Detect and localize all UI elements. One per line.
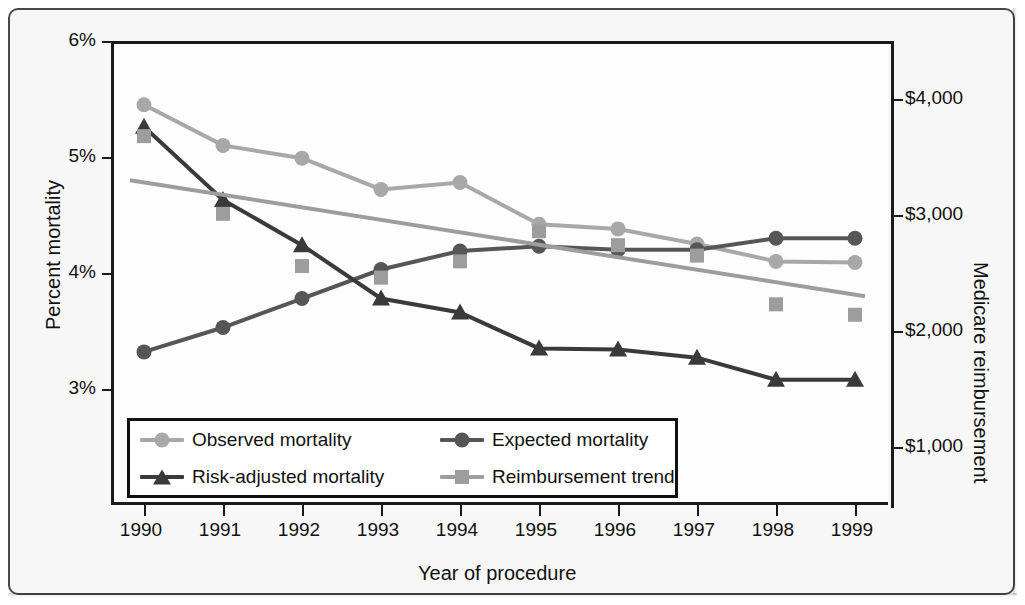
y-axis-tick-label: 4% (52, 261, 96, 283)
x-axis-tick-label: 1999 (824, 519, 880, 541)
right-spine (891, 41, 894, 508)
data-point (216, 320, 231, 335)
data-point (769, 297, 783, 311)
data-point (374, 182, 389, 197)
x-axis-tick-label: 1996 (587, 519, 643, 541)
top-spine (114, 41, 894, 44)
legend-marker-triangle (153, 469, 171, 484)
x-axis-tick (618, 505, 620, 516)
data-point (374, 271, 388, 285)
data-point (137, 97, 152, 112)
data-point (216, 138, 231, 153)
y-axis-tick-label: 6% (52, 29, 96, 51)
data-point (216, 207, 230, 221)
legend-label: Risk-adjusted mortality (192, 466, 384, 488)
data-point (532, 224, 546, 238)
legend-label: Observed mortality (192, 429, 351, 451)
legend-label: Expected mortality (492, 429, 648, 451)
data-point (848, 308, 862, 322)
legend-item-expected-mortality: Expected mortality (440, 429, 690, 451)
x-axis-tick (776, 505, 778, 516)
legend-item-risk-adjusted-mortality: Risk-adjusted mortality (140, 466, 440, 488)
data-point (848, 255, 863, 270)
x-axis-tick (855, 505, 857, 516)
y-axis-tick (102, 41, 114, 43)
y2-axis-tick-label: $3,000 (905, 203, 963, 225)
legend-item-reimbursement-trend: Reimbursement trend (440, 466, 690, 488)
y2-axis-title: Medicare reimbursement (969, 262, 992, 483)
legend-label: Reimbursement trend (492, 466, 675, 488)
y2-axis-tick-label: $1,000 (905, 435, 963, 457)
data-point (769, 231, 784, 246)
x-axis-tick (460, 505, 462, 516)
data-point (769, 254, 784, 269)
data-point (295, 151, 310, 166)
series-observed-mortality (137, 97, 863, 270)
x-axis-tick-label: 1992 (271, 519, 327, 541)
legend-marker-square (455, 470, 469, 484)
x-axis-tick-label: 1994 (429, 519, 485, 541)
trend-line (130, 180, 865, 296)
x-axis-tick-label: 1997 (666, 519, 722, 541)
legend-item-observed-mortality: Observed mortality (140, 429, 440, 451)
data-point (137, 344, 152, 359)
data-point (453, 175, 468, 190)
legend-swatch-line (140, 438, 184, 442)
data-point (611, 221, 626, 236)
legend-swatch-line (440, 475, 484, 479)
y-axis-title: Percent mortality (42, 180, 65, 330)
y-axis-tick (102, 389, 114, 391)
x-axis-tick (223, 505, 225, 516)
x-axis-tick (697, 505, 699, 516)
x-axis-tick-label: 1993 (350, 519, 406, 541)
legend-swatch-line (140, 475, 184, 479)
y2-axis-tick-label: $4,000 (905, 87, 963, 109)
y-axis-tick-label: 5% (52, 145, 96, 167)
data-point (848, 231, 863, 246)
data-point (293, 236, 311, 252)
x-axis-tick (381, 505, 383, 516)
chart-legend: Observed mortality Expected mortality Ri… (127, 418, 678, 498)
legend-swatch-line (440, 438, 484, 442)
data-point (611, 238, 625, 252)
x-axis-tick-label: 1990 (113, 519, 169, 541)
x-axis-tick (539, 505, 541, 516)
y2-axis-tick-label: $2,000 (905, 319, 963, 341)
x-axis-tick-label: 1991 (192, 519, 248, 541)
series-risk-adjusted-mortality (135, 118, 864, 387)
chart-canvas: Percent mortality Medicare reimbursement… (0, 0, 1025, 605)
legend-marker-circle (455, 432, 470, 447)
y-axis-tick (102, 157, 114, 159)
x-axis-tick-label: 1995 (508, 519, 564, 541)
y-axis-tick-label: 3% (52, 377, 96, 399)
series-expected-mortality (137, 231, 863, 360)
data-point (690, 249, 704, 263)
data-point (295, 291, 310, 306)
x-axis-tick-label: 1998 (745, 519, 801, 541)
x-axis-tick (302, 505, 304, 516)
y-axis-tick (102, 273, 114, 275)
series-reimbursement-trend (130, 129, 865, 322)
x-axis-tick (144, 505, 146, 516)
legend-marker-circle (155, 432, 170, 447)
data-point (453, 254, 467, 268)
data-point (295, 259, 309, 273)
x-axis-title: Year of procedure (418, 562, 576, 585)
data-point (137, 129, 151, 143)
